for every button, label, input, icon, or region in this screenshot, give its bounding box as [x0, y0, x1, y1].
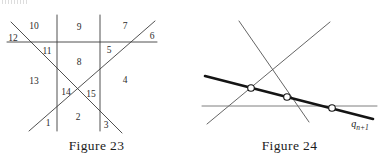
intersection-point-2 [284, 94, 291, 101]
figure-23-drawing [0, 0, 193, 140]
figure-23-panel: 10 9 7 12 6 11 5 8 13 4 14 15 1 2 3 Figu… [0, 0, 193, 160]
diagonal-down-right [11, 22, 122, 133]
diagonal-up-right [29, 21, 155, 131]
figure-24-caption: Figure 24 [193, 138, 386, 154]
figure-23-line-group [7, 15, 157, 133]
figure-sheet: 10 9 7 12 6 11 5 8 13 4 14 15 1 2 3 Figu… [0, 0, 386, 160]
q-n-plus-1-label: qn+1 [351, 118, 369, 131]
figure-24-thin-line-group [202, 21, 377, 124]
figure-23-caption: Figure 23 [0, 138, 193, 154]
intersection-point-3 [329, 105, 336, 112]
q-n-plus-1-label-subscript: n+1 [356, 123, 369, 132]
thin-line-up-right [207, 22, 330, 124]
thin-line-down-right [239, 21, 309, 122]
intersection-point-1 [248, 85, 255, 92]
figure-24-panel: qn+1 Figure 24 [193, 0, 386, 160]
